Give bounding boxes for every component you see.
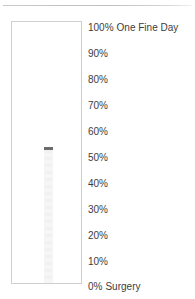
y-axis-tick-10: 10%	[88, 255, 195, 268]
series-bar-surgery[interactable]	[44, 150, 53, 283]
y-axis-tick-label: 70%	[88, 100, 108, 111]
y-axis-tick-0: 0%Surgery	[88, 280, 195, 293]
y-axis-tick-80: 80%	[88, 73, 195, 86]
top-divider-rule	[3, 5, 192, 6]
y-axis-tick-label-column: 100%One Fine Day 90% 80% 70% 60% 50% 40%…	[88, 21, 195, 284]
y-axis-tick-60: 60%	[88, 125, 195, 138]
y-axis-tick-label: 60%	[88, 126, 108, 137]
y-axis-tick-label: 50%	[88, 152, 108, 163]
y-axis-tick-100: 100%One Fine Day	[88, 21, 195, 34]
y-axis-tick-label: 10%	[88, 256, 108, 267]
y-axis-tick-30: 30%	[88, 203, 195, 216]
y-axis-tick-20: 20%	[88, 229, 195, 242]
y-axis-tick-90: 90%	[88, 47, 195, 60]
y-axis-tick-70: 70%	[88, 99, 195, 112]
y-axis-tick-label: 40%	[88, 178, 108, 189]
y-axis-tick-40: 40%	[88, 177, 195, 190]
series-value-marker[interactable]	[44, 147, 53, 150]
y-axis-tick-label: 20%	[88, 230, 108, 241]
y-axis-tick-label: 30%	[88, 204, 108, 215]
y-axis-tick-label: 100%	[88, 22, 114, 33]
category-label-top: One Fine Day	[117, 22, 179, 33]
y-axis-tick-label: 80%	[88, 74, 108, 85]
y-axis-tick-label: 90%	[88, 48, 108, 59]
category-label-bottom: Surgery	[105, 281, 140, 292]
y-axis-tick-50: 50%	[88, 151, 195, 164]
y-axis-tick-label: 0%	[88, 281, 102, 292]
